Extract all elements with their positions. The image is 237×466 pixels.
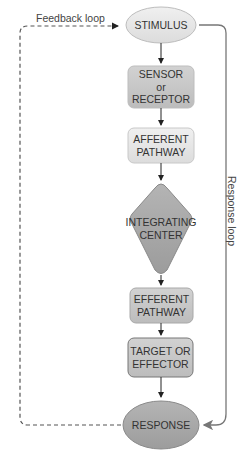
response-label: RESPONSE [123, 419, 199, 432]
target-effector-label: TARGET OR EFFECTOR [128, 345, 193, 370]
efferent-label: EFFERENT PATHWAY [130, 293, 193, 318]
response-loop-label: Response loop [226, 176, 237, 246]
response-loop-line [199, 25, 226, 425]
afferent-label: AFFERENT PATHWAY [128, 133, 194, 158]
feedback-loop-label: Feedback loop [36, 12, 105, 24]
integrating-label: INTEGRATING CENTER [124, 216, 198, 241]
stimulus-label: STIMULUS [126, 19, 196, 32]
sensor-label: SENSOR or RECEPTOR [128, 68, 194, 106]
reflex-diagram [0, 0, 237, 466]
feedback-loop-line [20, 26, 121, 425]
